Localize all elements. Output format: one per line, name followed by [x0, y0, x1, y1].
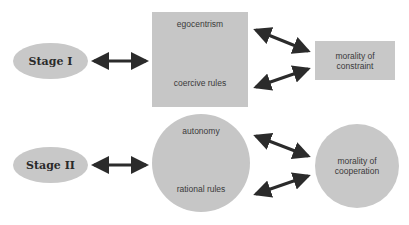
coercive-rules-label: coercive rules	[172, 78, 228, 88]
arrow-coercive-to-constraint	[256, 69, 308, 87]
morality-of-cooperation-node: morality of cooperation	[315, 124, 399, 208]
stage1-node: Stage I	[13, 43, 88, 79]
morality-of-cooperation-label: morality of cooperation	[326, 156, 388, 176]
rational-rules-label: rational rules	[176, 184, 226, 194]
morality-of-constraint-node: morality of constraint	[315, 41, 395, 80]
egocentrism-label: egocentrism	[152, 19, 248, 29]
arrow-rational-to-cooperation	[256, 176, 308, 194]
stage2-label: Stage II	[26, 159, 75, 172]
morality-of-constraint-label: morality of constraint	[325, 51, 385, 71]
autonomy-label: autonomy	[152, 126, 250, 136]
arrow-autonomy-to-cooperation	[256, 136, 308, 156]
stage2-node: Stage II	[13, 147, 88, 183]
arrow-egocentrism-to-constraint	[256, 30, 308, 51]
stage1-label: Stage I	[29, 55, 73, 68]
